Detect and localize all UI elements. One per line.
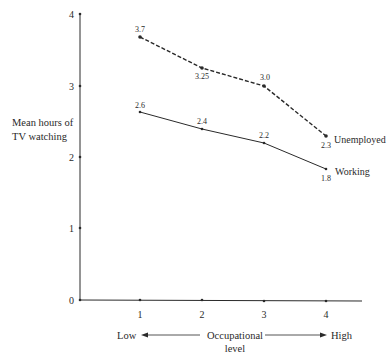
data-label: 3.25 [195,72,209,81]
data-label: 2.6 [135,101,145,110]
data-point [201,128,204,131]
right-arrow-icon [320,333,327,338]
y-axis-title-line1: Mean hours of [12,117,74,128]
data-point [263,142,266,145]
data-label: 2.2 [259,131,269,140]
data-label: 3.7 [135,25,145,34]
data-point [200,66,204,70]
data-point [325,168,328,171]
data-label: 2.4 [197,117,207,126]
x-axis-title-line1: Occupational [207,330,263,341]
x-axis-low-label: Low [117,330,137,341]
y-tick-label: 3 [69,81,74,92]
y-tick-label: 0 [69,295,74,306]
data-point [138,35,142,39]
working-series-label: Working [335,166,370,177]
x-tick-label: 4 [324,309,329,320]
unemployed-series-label: Unemployed [334,134,386,145]
unemployed-line [140,37,326,136]
y-ticks: 4 3 2 1 0 [69,9,81,306]
x-axis-title-line2: level [225,343,245,354]
data-label: 3.0 [260,73,270,82]
data-point [139,111,142,114]
x-axis-high-label: High [331,330,353,341]
x-axis [80,300,362,301]
x-tick-label: 1 [138,309,143,320]
line-chart: 4 3 2 1 0 1 2 3 4 Mean hours of TV watch… [0,0,390,361]
data-label: 2.3 [321,141,331,150]
data-point [262,84,266,88]
y-axis-title-line2: TV watching [12,131,68,142]
left-arrow-icon [141,333,148,338]
y-tick-label: 1 [69,223,74,234]
data-label: 1.8 [321,174,331,183]
x-tick-label: 2 [200,309,205,320]
x-tick-label: 3 [262,309,267,320]
data-point [324,134,328,138]
y-tick-label: 4 [69,9,74,20]
working-line [140,112,326,169]
y-tick-label: 2 [69,152,74,163]
x-ticks: 1 2 3 4 [138,299,329,320]
